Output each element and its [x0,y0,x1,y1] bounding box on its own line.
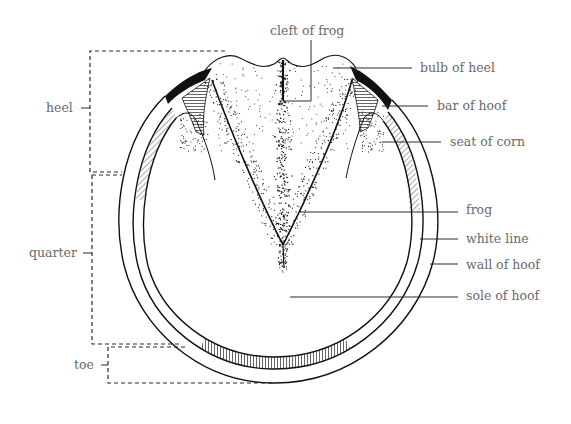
stipple-dot [221,83,222,84]
stipple-dot [284,129,285,130]
stipple-dot [224,142,225,143]
stipple-dot [236,105,237,106]
stipple-dot [367,124,368,125]
frog-apex [283,245,284,268]
stipple-dot [293,132,294,133]
stipple-dot [288,113,289,114]
stipple-dot [237,161,238,162]
stipple-dot [199,143,200,144]
stipple-dot [281,240,282,241]
stipple-dot [228,133,229,134]
stipple-dot [211,83,212,84]
stipple-dot [338,123,339,124]
stipple-dot [279,213,280,214]
stipple-dot [237,135,238,136]
stipple-dot [363,121,364,122]
stipple-dot [289,233,290,234]
stipple-dot [281,144,282,145]
stipple-dot [289,244,290,245]
stipple-dot [363,141,364,142]
stipple-dot [287,88,288,89]
left-wall-hatching [136,110,178,200]
stipple-dot [277,185,278,186]
label-sole-of-hoof: sole of hoof [466,288,541,303]
stipple-dot [262,126,263,127]
stipple-dot [195,146,196,147]
stipple-dot [377,116,378,117]
stipple-dot [303,195,304,196]
stipple-dot [345,96,346,97]
stipple-dot [280,103,281,104]
stipple-dot [266,217,267,218]
leader-cleft-of-frog [283,40,311,101]
stipple-dot [280,105,281,106]
stipple-dot [225,99,226,100]
stipple-dot [310,159,311,160]
stipple-dot [183,148,184,149]
stipple-dot [316,122,317,123]
stipple-dot [283,226,284,227]
stipple-dot [258,165,259,166]
stipple-dot [277,236,278,237]
stipple-dot [237,113,238,114]
stipple-dot [238,142,239,143]
stipple-dot [286,244,287,245]
stipple-dot [254,104,255,105]
stipple-dot [339,104,340,105]
stipple-dot [335,76,336,77]
stipple-dot [279,104,280,105]
stipple-dot [235,89,236,90]
stipple-dot [281,214,282,215]
stipple-dot [280,91,281,92]
stipple-dot [288,115,289,116]
stipple-dot [284,249,285,250]
stipple-dot [261,193,262,194]
stipple-dot [281,212,282,213]
stipple-dot [312,195,313,196]
stipple-dot [336,119,337,120]
stipple-dot [368,146,369,147]
stipple-dot [219,128,220,129]
stipple-dot [345,130,346,131]
stipple-dot [284,183,285,184]
stipple-dot [264,206,265,207]
stipple-dot [261,171,262,172]
stipple-dot [269,202,270,203]
stipple-dot [222,104,223,105]
stipple-dot [180,118,181,119]
stipple-dot [249,187,250,188]
stipple-dot [314,105,315,106]
stipple-dot [324,142,325,143]
stipple-dot [353,79,354,80]
stipple-dot [287,248,288,249]
stipple-dot [374,141,375,142]
stipple-dot [282,266,283,267]
stipple-dot [253,143,254,144]
stipple-dot [288,137,289,138]
stipple-dot [223,92,224,93]
stipple-dot [372,145,373,146]
stipple-dot [236,88,237,89]
stipple-dot [324,84,325,85]
stipple-dot [286,226,287,227]
stipple-dot [277,158,278,159]
stipple-dot [209,91,210,92]
stipple-dot [259,204,260,205]
stipple-dot [206,139,207,140]
stipple-dot [278,62,279,63]
stipple-dot [225,142,226,143]
stipple-dot [223,74,224,75]
stipple-dot [274,203,275,204]
stipple-dot [242,74,243,75]
stipple-dot [249,142,250,143]
stipple-dot [371,123,372,124]
stipple-dot [256,125,257,126]
stipple-dot [282,91,283,92]
stipple-dot [219,117,220,118]
stipple-dot [241,135,242,136]
stipple-dot [333,134,334,135]
stipple-dot [247,90,248,91]
stipple-dot [279,195,280,196]
stipple-dot [371,125,372,126]
stipple-dot [257,185,258,186]
